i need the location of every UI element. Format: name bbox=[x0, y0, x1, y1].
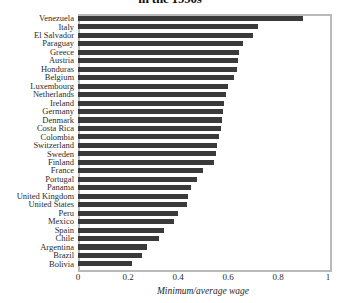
chart-title: in the 1990s bbox=[0, 0, 340, 7]
category-label: Switzerland bbox=[0, 141, 74, 149]
category-label: Brazil bbox=[0, 251, 74, 259]
x-axis-title: Minimum/average wage bbox=[78, 286, 328, 296]
minimum-wage-bar-chart: in the 1990s VenezuelaItalyEl SalvadorPa… bbox=[0, 0, 340, 303]
x-tick-label: 1 bbox=[326, 272, 331, 282]
x-tick-label: 0.2 bbox=[122, 272, 133, 282]
category-label: Bolivia bbox=[0, 260, 74, 268]
category-labels: VenezuelaItalyEl SalvadorParaguayGreeceA… bbox=[0, 14, 340, 268]
x-tick-label: 0.4 bbox=[172, 272, 183, 282]
category-label: Venezuela bbox=[0, 14, 74, 22]
x-tick-label: 0.6 bbox=[222, 272, 233, 282]
x-tick-label: 0.8 bbox=[272, 272, 283, 282]
x-tick-label: 0 bbox=[76, 272, 81, 282]
category-label: Germany bbox=[0, 107, 74, 115]
category-label: Chile bbox=[0, 234, 74, 242]
category-label: Costa Rica bbox=[0, 124, 74, 132]
x-axis-ticks: 00.20.40.60.81 bbox=[78, 272, 328, 286]
